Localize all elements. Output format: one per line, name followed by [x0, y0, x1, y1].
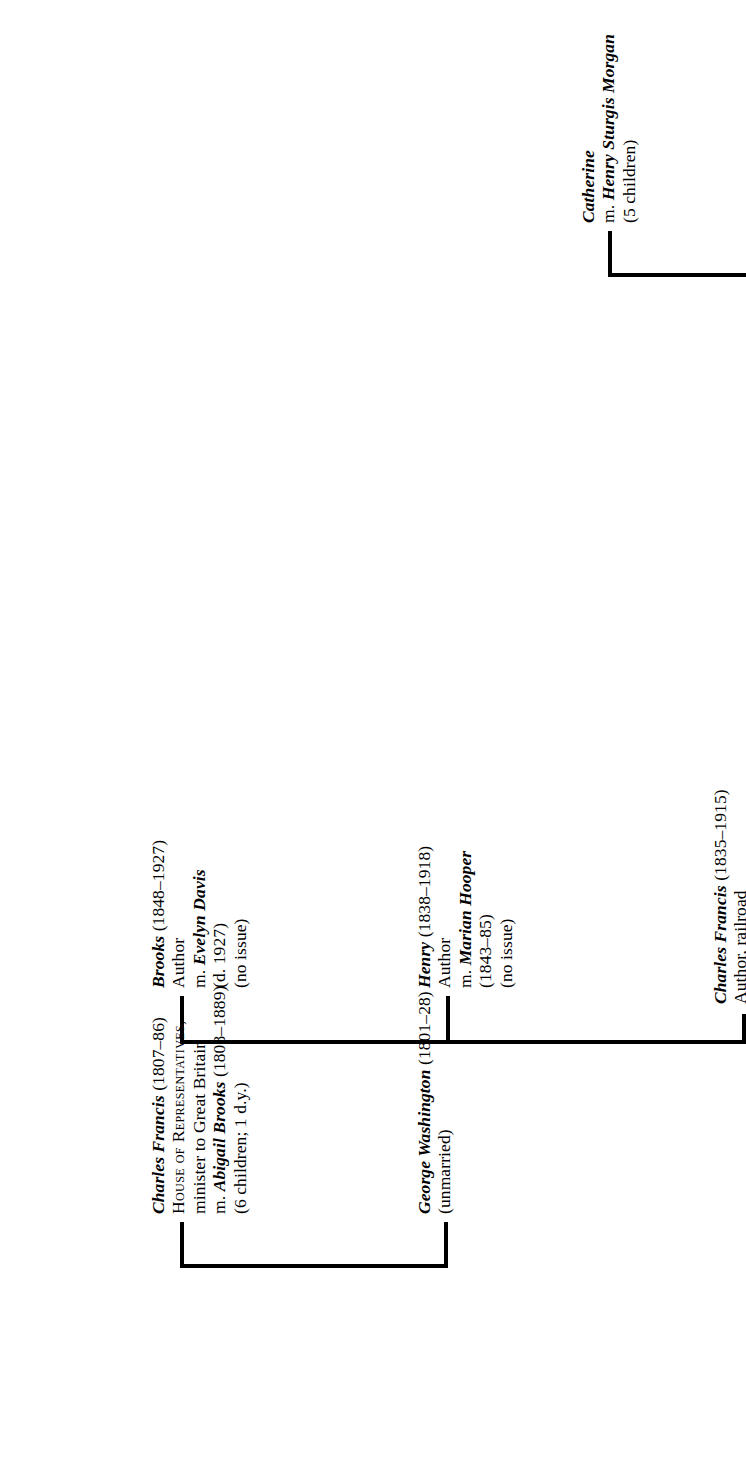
- node-henry-spouse-dates: (1843–85): [475, 846, 495, 988]
- node-henry-nameline: Henry (1838–1918): [414, 846, 434, 988]
- node-gw-dates: (1801–28): [414, 991, 434, 1065]
- node-cf1807-spouse: Abigail Brooks: [209, 1082, 229, 1192]
- node-cf1835-detail-1: Author, railroad: [730, 789, 746, 1004]
- node-henry-dates: (1838–1918): [414, 846, 434, 938]
- node-brooks-children: (no issue): [230, 840, 250, 988]
- node-gw-name: George Washington: [414, 1070, 434, 1215]
- node-henry-1838: Henry (1838–1918) Author m. Marian Hoope…: [414, 846, 516, 988]
- node-cf1807-nameline: Charles Francis (1807–86): [148, 986, 168, 1215]
- node-charles-francis-1807: Charles Francis (1807–86) House of Repre…: [148, 986, 250, 1215]
- node-catherine-marriage: m. Henry Sturgis Morgan: [598, 34, 618, 223]
- node-catherine-name: Catherine: [578, 34, 598, 223]
- node-henry-detail: Author: [434, 846, 454, 988]
- node-cf1807-name: Charles Francis: [148, 1095, 168, 1214]
- connector-gen1-stub-gw: [444, 1222, 448, 1268]
- node-cf1807-office: House of Representatives,: [168, 986, 188, 1215]
- node-henry-spouse: Marian Hooper: [455, 851, 475, 966]
- connector-gen4-spine: [608, 273, 746, 277]
- node-cf1807-spouse-dates: (1808–1889): [209, 986, 229, 1078]
- node-cf1807-children: (6 children; 1 d.y.): [230, 986, 250, 1215]
- node-cf1807-detail: minister to Great Britain: [189, 986, 209, 1215]
- connector-gen2-spine: [180, 1040, 746, 1044]
- node-brooks-marriage: m. Evelyn Davis: [189, 840, 209, 988]
- node-cf1835-nameline: Charles Francis (1835–1915): [710, 789, 730, 1004]
- node-brooks-1848: Brooks (1848–1927) Author m. Evelyn Davi…: [148, 840, 250, 988]
- chart-canvas: George Washington (1801–28) (unmarried) …: [0, 0, 746, 1462]
- node-cf1807-marriage: m. Abigail Brooks (1808–1889): [209, 986, 229, 1215]
- connector-gen1-stub-cf: [180, 1222, 184, 1268]
- connector-gen2-stub-charles: [742, 1014, 746, 1044]
- node-catherine-spouse: Henry Sturgis Morgan: [598, 34, 618, 200]
- node-catherine-children: (5 children): [619, 34, 639, 223]
- node-catherine: Catherine m. Henry Sturgis Morgan (5 chi…: [578, 34, 639, 223]
- node-cf1835-dates: (1835–1915): [710, 789, 730, 881]
- node-cf1807-dates: (1807–86): [148, 1017, 168, 1091]
- node-henry-children: (no issue): [496, 846, 516, 988]
- family-tree-chart: George Washington (1801–28) (unmarried) …: [0, 0, 746, 1462]
- node-brooks-dates: (1848–1927): [148, 840, 168, 932]
- node-gw-detail-1: (unmarried): [434, 991, 454, 1214]
- node-henry-name: Henry: [414, 942, 434, 988]
- node-brooks-detail: Author: [168, 840, 188, 988]
- node-brooks-name: Brooks: [148, 936, 168, 988]
- node-brooks-spouse-dates: (d. 1927): [209, 840, 229, 988]
- node-cf1835-name: Charles Francis: [710, 885, 730, 1004]
- node-charles-francis-1835: Charles Francis (1835–1915) Author, rail…: [710, 789, 746, 1004]
- node-george-washington: George Washington (1801–28) (unmarried): [414, 991, 455, 1214]
- node-henry-marriage: m. Marian Hooper: [455, 846, 475, 988]
- connector-gen4-stub-catherine: [608, 231, 612, 277]
- node-brooks-nameline: Brooks (1848–1927): [148, 840, 168, 988]
- node-gw-nameline: George Washington (1801–28): [414, 991, 434, 1214]
- connector-gen1-spine: [180, 1264, 448, 1268]
- node-brooks-spouse: Evelyn Davis: [189, 869, 209, 965]
